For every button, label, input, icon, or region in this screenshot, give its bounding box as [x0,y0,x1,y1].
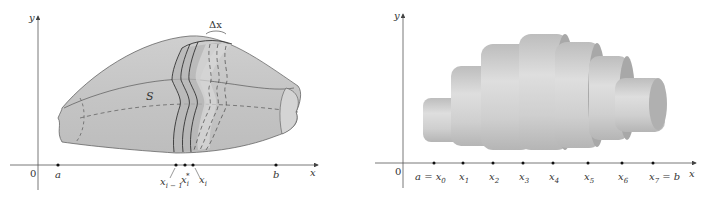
point-x7 [652,162,655,165]
point-b [274,163,277,166]
origin-label: 0 [30,168,36,179]
left-figure: y x 0 S Δx a xi − 1 xi* xi b [10,12,318,190]
surface-label: S [146,90,154,103]
label-x-i: xi [199,174,207,188]
label-a: a [55,169,61,180]
label-x5: x5 [584,171,595,185]
label-b: b [273,169,279,180]
point-x4 [552,162,555,165]
y-axis-label: y [28,12,35,23]
label-x-i-minus-1: xi − 1 [160,176,183,190]
figure-canvas: y x 0 S Δx a xi − 1 xi* xi b [0,0,708,205]
label-x4: x4 [549,171,559,185]
label-x3: x3 [519,171,530,185]
right-figure: y x 0 a = x0 x1 x2 x3 x4 x5 x6 x7 = b [375,10,696,188]
label-x0: a = x0 [415,171,446,185]
label-x1: x1 [459,171,469,185]
x-axis-label: x [310,167,316,178]
point-x-i-star [183,163,186,166]
point-x5 [587,162,590,165]
right-end-cap [280,88,298,134]
point-a [56,163,59,166]
delta-x-label: Δx [209,19,222,30]
label-x2: x2 [489,171,500,185]
label-x7: x7 = b [649,171,680,185]
point-x-i [191,163,194,166]
label-x6: x6 [618,171,629,185]
y-axis-label: y [393,10,400,21]
point-x-i-minus-1 [174,163,177,166]
point-x3 [522,162,525,165]
stacked-cylinders [423,34,667,150]
origin-label: 0 [395,166,401,177]
point-x2 [492,162,495,165]
point-x0 [433,162,436,165]
x-axis-label: x [689,168,695,179]
point-x6 [621,162,624,165]
point-x1 [462,162,465,165]
